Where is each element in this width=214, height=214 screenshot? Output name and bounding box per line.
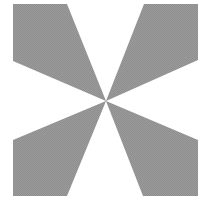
pattern-canvas — [0, 0, 214, 214]
pinwheel-pattern — [0, 0, 214, 214]
